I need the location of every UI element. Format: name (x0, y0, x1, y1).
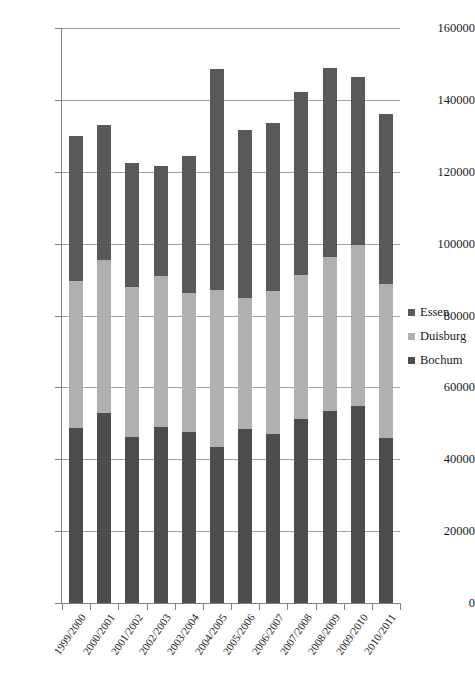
bar-segment-bochum[interactable] (238, 429, 252, 603)
bar-group[interactable] (351, 28, 365, 603)
bar-segment-duisburg[interactable] (69, 281, 83, 429)
y-axis-tick-mark (55, 100, 62, 101)
bar-group[interactable] (210, 28, 224, 603)
legend-label: Bochum (420, 354, 462, 367)
bar-segment-bochum[interactable] (379, 438, 393, 603)
legend-swatch-icon (408, 309, 415, 316)
plot-area (62, 28, 400, 603)
y-axis-tick-mark (55, 531, 62, 532)
bar-segment-duisburg[interactable] (379, 284, 393, 439)
x-axis-tick-mark (259, 604, 260, 610)
y-axis-tick-label: 0 (419, 597, 475, 609)
bar-segment-duisburg[interactable] (238, 298, 252, 430)
x-axis-tick-mark (175, 604, 176, 610)
x-axis-tick-mark (62, 604, 63, 610)
bar-segment-essen[interactable] (351, 77, 365, 246)
y-axis-tick-label: 20000 (419, 525, 475, 537)
y-axis-tick-mark (55, 603, 62, 604)
legend-item-duisburg[interactable]: Duisburg (408, 324, 475, 348)
x-axis-tick-mark (118, 604, 119, 610)
bar-group[interactable] (69, 28, 83, 603)
bar-segment-bochum[interactable] (323, 411, 337, 603)
gridline (62, 316, 400, 317)
bar-segment-bochum[interactable] (97, 413, 111, 603)
x-axis-tick-mark (344, 604, 345, 610)
bar-segment-duisburg[interactable] (323, 257, 337, 412)
gridline (62, 28, 400, 29)
bar-segment-essen[interactable] (294, 92, 308, 276)
bar-segment-duisburg[interactable] (125, 287, 139, 438)
y-axis-tick-label: 140000 (419, 94, 475, 106)
bar-segment-essen[interactable] (379, 114, 393, 283)
bar-group[interactable] (97, 28, 111, 603)
bar-segment-essen[interactable] (154, 166, 168, 275)
bar-segment-bochum[interactable] (266, 434, 280, 603)
x-axis-tick-mark (287, 604, 288, 610)
bar-segment-bochum[interactable] (210, 447, 224, 603)
x-axis-tick-mark (316, 604, 317, 610)
bar-segment-essen[interactable] (125, 163, 139, 287)
gridline (62, 100, 400, 101)
legend-swatch-icon (408, 333, 415, 340)
y-axis-tick-mark (55, 387, 62, 388)
gridline (62, 387, 400, 388)
bar-segment-bochum[interactable] (294, 419, 308, 603)
stacked-bar-chart: 0200004000060000800001000001200001400001… (0, 0, 475, 674)
x-axis-tick-mark (90, 604, 91, 610)
bar-segment-duisburg[interactable] (97, 260, 111, 412)
bar-segment-bochum[interactable] (154, 427, 168, 603)
bar-group[interactable] (266, 28, 280, 603)
bar-segment-duisburg[interactable] (351, 245, 365, 406)
bar-group[interactable] (294, 28, 308, 603)
legend-swatch-icon (408, 357, 415, 364)
legend-item-bochum[interactable]: Bochum (408, 348, 475, 372)
bar-segment-duisburg[interactable] (154, 276, 168, 428)
y-axis-tick-label: 40000 (419, 453, 475, 465)
bar-segment-bochum[interactable] (69, 428, 83, 603)
bar-segment-essen[interactable] (69, 136, 83, 281)
y-axis-tick-label: 60000 (419, 381, 475, 393)
x-axis-tick-mark (372, 604, 373, 610)
bar-segment-bochum[interactable] (351, 406, 365, 603)
bar-group[interactable] (154, 28, 168, 603)
y-axis-tick-label: 120000 (419, 166, 475, 178)
bar-group[interactable] (238, 28, 252, 603)
bar-segment-duisburg[interactable] (266, 291, 280, 434)
x-axis-tick-mark (203, 604, 204, 610)
x-axis-tick-mark (231, 604, 232, 610)
bar-segment-essen[interactable] (210, 69, 224, 291)
bar-group[interactable] (379, 28, 393, 603)
bar-segment-essen[interactable] (238, 130, 252, 297)
y-axis-tick-mark (55, 172, 62, 173)
bar-group[interactable] (182, 28, 196, 603)
gridline (62, 459, 400, 460)
bar-segment-bochum[interactable] (125, 437, 139, 603)
bar-segment-duisburg[interactable] (294, 275, 308, 419)
legend-label: Duisburg (420, 330, 466, 343)
legend-label: Essen (420, 306, 449, 319)
bar-segment-bochum[interactable] (182, 432, 196, 603)
bar-group[interactable] (323, 28, 337, 603)
x-axis-tick-mark (147, 604, 148, 610)
bar-segment-essen[interactable] (266, 123, 280, 291)
y-axis-tick-mark (55, 28, 62, 29)
bar-segment-duisburg[interactable] (210, 290, 224, 447)
y-axis-tick-label: 100000 (419, 238, 475, 250)
y-axis-tick-label: 160000 (419, 22, 475, 34)
y-axis-tick-mark (55, 459, 62, 460)
legend-item-essen[interactable]: Essen (408, 300, 475, 324)
bar-segment-essen[interactable] (182, 156, 196, 293)
gridline (62, 172, 400, 173)
bar-segment-duisburg[interactable] (182, 293, 196, 432)
gridline (62, 531, 400, 532)
x-axis-tick-mark (400, 604, 401, 610)
bar-segment-essen[interactable] (323, 68, 337, 256)
y-axis-tick-mark (55, 244, 62, 245)
bar-group[interactable] (125, 28, 139, 603)
gridline (62, 244, 400, 245)
chart-legend: EssenDuisburgBochum (408, 300, 475, 372)
y-axis-tick-mark (55, 316, 62, 317)
bar-segment-essen[interactable] (97, 125, 111, 260)
